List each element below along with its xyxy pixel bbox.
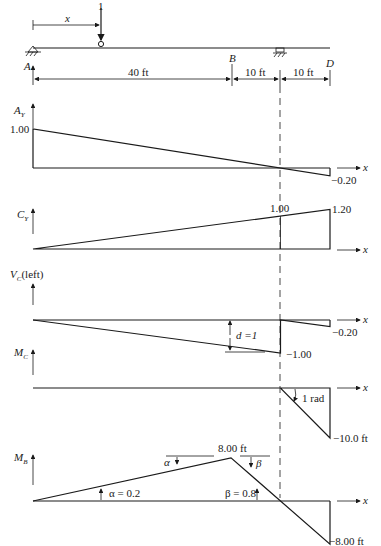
roller-support-icon <box>273 48 287 57</box>
point-d-label: D <box>325 57 334 69</box>
vc-influence-line: VC(left) x d =1 −1.00 −0.20 <box>10 268 368 360</box>
load-label: 1 <box>98 0 104 12</box>
span-ab-label: 40 ft <box>128 66 148 78</box>
mb-influence-line: MB x 8.00 ft −8.00 ft α β α = 0.2 β = 0.… <box>13 442 368 546</box>
svg-text:MC: MC <box>13 346 28 361</box>
mc-rad-annotation: 1 rad <box>302 392 325 404</box>
cy-x-label: x <box>362 243 368 255</box>
svg-text:VC(left): VC(left) <box>10 268 44 283</box>
mc-influence-line: MC x 1 rad −10.0 ft <box>13 346 368 444</box>
svg-text:MB: MB <box>13 451 28 466</box>
influence-line-diagram: 1 x A B D 40 ft 10 ft 10 ft AY x 1.00 −0… <box>0 0 381 546</box>
vc-d-annotation: d =1 <box>236 329 257 341</box>
ay-x-label: x <box>362 161 368 173</box>
point-a-label: A <box>23 60 31 72</box>
mb-x-label: x <box>362 494 368 506</box>
svg-text:CY: CY <box>17 208 29 223</box>
mb-alpha-label: α <box>164 456 170 468</box>
mc-line <box>33 388 330 438</box>
vc-value-2: −0.20 <box>332 326 358 338</box>
ay-influence-line: AY x 1.00 −0.20 <box>10 104 368 186</box>
mb-alpha-value: α = 0.2 <box>109 487 140 499</box>
cy-line <box>33 209 330 249</box>
rotation-arrow-icon <box>294 389 296 401</box>
cy-influence-line: CY x 1.00 1.20 <box>17 202 368 255</box>
vc-value-1: −1.00 <box>286 348 312 360</box>
span-cd-label: 10 ft <box>293 66 313 78</box>
beam-diagram: 1 x A B D 40 ft 10 ft 10 ft <box>23 0 334 86</box>
mb-value-1: 8.00 ft <box>218 442 247 454</box>
ay-value-2: −0.20 <box>331 174 357 186</box>
cy-value-2: 1.20 <box>332 203 352 215</box>
point-b-label: B <box>229 52 236 64</box>
mb-beta-label: β <box>255 457 262 469</box>
ay-value-1: 1.00 <box>10 123 30 135</box>
cy-value-1: 1.00 <box>270 202 290 214</box>
ay-line <box>33 129 330 176</box>
distance-label: x <box>64 12 70 24</box>
mb-beta-value: β = 0.8 <box>225 487 257 499</box>
mc-x-label: x <box>362 381 368 393</box>
mc-value-1: −10.0 ft <box>333 432 368 444</box>
svg-text:AY: AY <box>13 104 26 119</box>
mb-value-2: −8.00 ft <box>329 535 364 546</box>
span-bc-label: 10 ft <box>245 66 265 78</box>
vc-x-label: x <box>362 313 368 325</box>
load-roller-icon <box>98 41 103 46</box>
